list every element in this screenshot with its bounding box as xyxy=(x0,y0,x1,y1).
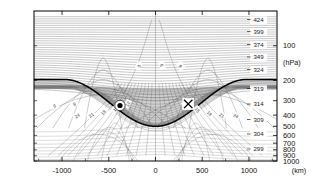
theta-label-text: 374 xyxy=(253,41,264,48)
theta-label-text: 319 xyxy=(253,85,264,92)
marker-dot xyxy=(117,103,122,108)
pressure-axis-unit: (hPa) xyxy=(283,58,301,67)
plot-area: 12151821241215182124693693 xyxy=(34,11,277,161)
theta-label: 399 xyxy=(247,28,267,36)
x-tick-label: -500 xyxy=(101,166,116,175)
theta-label-text: 314 xyxy=(253,100,264,107)
theta-label-text: 399 xyxy=(253,28,264,35)
x-axis-unit: (km) xyxy=(292,166,306,175)
pressure-tick-label: 500 xyxy=(283,122,295,131)
theta-label-text: 299 xyxy=(253,145,264,152)
theta-label: 374 xyxy=(247,41,267,49)
theta-label: 424 xyxy=(247,16,267,24)
theta-label-text: 324 xyxy=(253,66,264,73)
theta-label: 319 xyxy=(247,85,267,93)
theta-label-text: 304 xyxy=(253,130,264,137)
pressure-tick-label: 100 xyxy=(283,41,295,50)
x-tick-label: 500 xyxy=(196,166,208,175)
chart-figure: 12151821241215182124693693-1000-50005001… xyxy=(0,0,323,183)
theta-label: 309 xyxy=(247,116,267,124)
theta-label: 299 xyxy=(247,145,267,153)
theta-label-text: 424 xyxy=(253,16,264,23)
pressure-tick-label: 400 xyxy=(283,111,295,120)
theta-label-text: 309 xyxy=(253,116,264,123)
x-tick-label: 1000 xyxy=(241,166,257,175)
pressure-tick-label: 200 xyxy=(283,76,295,85)
theta-label: 314 xyxy=(247,100,267,108)
cross-section-plot: 12151821241215182124693693-1000-50005001… xyxy=(0,0,323,183)
theta-label: 324 xyxy=(247,66,267,74)
x-tick-label: -1000 xyxy=(53,166,72,175)
pressure-tick-label: 1000 xyxy=(283,157,299,166)
filled-circle-marker xyxy=(115,100,125,110)
cross-marker xyxy=(183,99,194,110)
theta-label: 304 xyxy=(247,130,267,138)
x-tick-label: 0 xyxy=(153,166,157,175)
theta-label-text: 349 xyxy=(253,53,264,60)
pressure-tick-label: 300 xyxy=(283,96,295,105)
theta-label: 349 xyxy=(247,53,267,61)
